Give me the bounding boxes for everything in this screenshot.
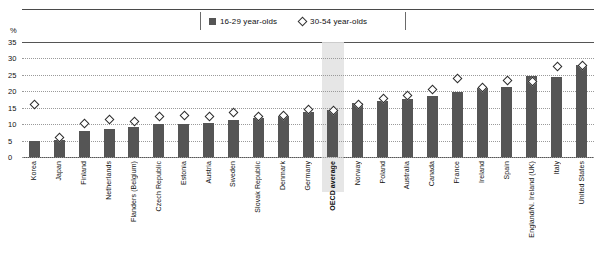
bar (551, 77, 562, 157)
bar (278, 116, 289, 157)
bar (128, 127, 139, 157)
legend-label-30-54: 30-54 year-olds (310, 17, 367, 26)
bar (153, 124, 164, 158)
x-axis-category-label: Austria (205, 161, 212, 184)
x-axis-category-label: Germany (304, 161, 311, 191)
bar (303, 112, 314, 157)
legend-item-30-54: 30-54 year-olds (291, 17, 375, 26)
bar (402, 99, 413, 157)
legend-label-16-29: 16-29 year-olds (220, 17, 277, 26)
x-axis-category-label: Sweden (229, 161, 236, 187)
x-axis-category-label: Korea (30, 161, 37, 180)
y-axis-tick-label: 30 (8, 54, 16, 63)
x-axis-category-label: Czech Republic (155, 161, 162, 211)
gridline (22, 157, 594, 158)
data-point-diamond (354, 100, 362, 108)
x-axis-category-label: Japan (55, 161, 62, 181)
data-point-diamond (503, 76, 511, 84)
bar (452, 92, 463, 157)
data-point-diamond (130, 117, 138, 125)
x-axis-category-label: France (453, 161, 460, 183)
gridline (22, 58, 594, 59)
bar (477, 88, 488, 157)
data-point-diamond (55, 133, 63, 141)
data-point-diamond (428, 85, 436, 93)
data-point-diamond (229, 108, 237, 116)
y-axis-tick-label: 10 (8, 120, 16, 129)
x-axis-category-label: England/N. Ireland (UK) (528, 161, 535, 238)
data-point-diamond (403, 91, 411, 99)
x-axis-category-label: Australia (403, 161, 410, 189)
x-axis-category-label: Denmark (279, 161, 286, 190)
bar (427, 96, 438, 157)
data-point-diamond (304, 105, 312, 113)
bar (228, 120, 239, 157)
y-axis-tick-label: 0 (8, 153, 12, 162)
data-point-diamond (180, 111, 188, 119)
x-axis-category-label: Poland (379, 161, 386, 183)
x-axis-category-label: Norway (354, 161, 361, 185)
y-axis-tick-label: 15 (8, 103, 16, 112)
data-point-diamond (279, 111, 287, 119)
x-axis-category-label: Ireland (478, 161, 485, 183)
y-axis-tick-label: 35 (8, 38, 16, 47)
chart-container: 16-29 year-olds 30-54 year-olds % 051015… (0, 0, 602, 263)
bar (526, 76, 537, 157)
plot-area (22, 42, 594, 157)
bar (178, 124, 189, 158)
data-point-diamond (478, 83, 486, 91)
data-point-diamond (329, 106, 337, 114)
x-axis-category-label: Finland (80, 161, 87, 185)
data-point-diamond (553, 62, 561, 70)
bar (576, 65, 587, 157)
y-axis-unit-label: % (10, 26, 17, 35)
filled-square-icon (209, 18, 216, 25)
bar (29, 141, 40, 157)
data-point-diamond (254, 112, 262, 120)
x-axis-category-label: OECD average (329, 161, 336, 211)
data-point-diamond (105, 115, 113, 123)
bar (327, 110, 338, 157)
bar (203, 123, 214, 157)
x-axis-category-label: Netherlands (105, 161, 112, 200)
y-axis-tick-label: 25 (8, 70, 16, 79)
x-axis-category-label: United States (578, 161, 585, 204)
y-axis-tick-label: 5 (8, 136, 12, 145)
x-axis-category-label: Canada (428, 161, 435, 186)
legend-item-16-29: 16-29 year-olds (201, 17, 285, 26)
top-rule (22, 9, 594, 10)
bar (253, 118, 264, 157)
data-point-diamond (578, 61, 586, 69)
x-axis-category-label: Slovak Republic (254, 161, 261, 213)
data-point-diamond (453, 74, 461, 82)
x-axis-category-label: Flanders (Belgium) (130, 161, 137, 222)
data-point-diamond (155, 112, 163, 120)
data-point-diamond (30, 100, 38, 108)
bar (501, 87, 512, 157)
bar (377, 101, 388, 157)
bar (104, 129, 115, 157)
bar (79, 131, 90, 157)
chart-legend: 16-29 year-olds 30-54 year-olds (200, 12, 406, 30)
x-axis-category-label: Spain (503, 161, 510, 179)
bar (352, 103, 363, 157)
data-point-diamond (205, 112, 213, 120)
data-point-diamond (528, 77, 536, 85)
open-diamond-icon (299, 18, 306, 25)
x-axis-category-label: Italy (553, 161, 560, 174)
data-point-diamond (379, 94, 387, 102)
y-axis-tick-label: 20 (8, 87, 16, 96)
x-axis-category-label: Estonia (180, 161, 187, 185)
data-point-diamond (80, 119, 88, 127)
